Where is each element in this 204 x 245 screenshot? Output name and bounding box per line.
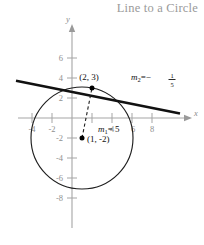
m2-slope-label: m2=− 1 5	[131, 72, 176, 89]
y-tick-label--4: -4	[56, 153, 64, 163]
m2-fraction-numerator: 1	[170, 72, 173, 79]
y-tick-label--2: -2	[56, 133, 63, 143]
y-tick-label-2: 2	[59, 93, 63, 103]
y-tick-label--6: -6	[56, 173, 63, 183]
y-tick-label--8: -8	[56, 193, 63, 203]
y-axis-arrow-icon	[69, 24, 75, 32]
m1-equals-value: = 5	[108, 124, 120, 134]
y-tick-label-4: 4	[59, 73, 64, 83]
x-axis-arrow-icon	[184, 115, 192, 121]
svg-text:m2=−: m2=−	[131, 72, 151, 83]
svg-text:m1= 5: m1= 5	[98, 124, 120, 135]
y-tick-label-6: 6	[59, 53, 63, 63]
y-ticks-group: 6 4 2 -2 -4 -6 -8	[56, 53, 77, 203]
figure-page: Line to a Circle y x -4 -2 4 6	[0, 0, 204, 245]
x-tick-label-8: 8	[150, 124, 154, 134]
x-tick-label--2: -2	[48, 124, 55, 134]
x-ticks-group: -4 -2 4 6 8	[28, 113, 154, 134]
center-point-marker	[80, 136, 85, 141]
y-axis-title: y	[65, 14, 70, 24]
m2-minus-sign: −	[146, 72, 151, 82]
coordinate-plot: y x -4 -2 4 6 8 6 4 2	[0, 0, 204, 245]
m2-fraction-denominator: 5	[170, 81, 173, 88]
tangent-point-label: (2, 3)	[79, 72, 99, 82]
tangent-point-marker	[90, 86, 95, 91]
m1-slope-label: m1= 5	[98, 124, 120, 135]
axes-group: y x	[18, 14, 198, 228]
x-axis-title: x	[193, 108, 198, 118]
center-point-label: (1, -2)	[87, 134, 110, 144]
